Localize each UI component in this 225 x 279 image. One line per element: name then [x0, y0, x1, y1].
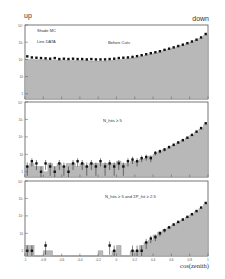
data-point	[63, 57, 65, 59]
y-tick-label: 10³	[18, 197, 23, 201]
data-point	[163, 49, 165, 51]
data-point	[205, 122, 207, 124]
data-point	[40, 171, 42, 173]
y-tick-label: 10²	[18, 58, 23, 62]
y-tick-label: 10⁴	[18, 180, 24, 184]
data-point	[145, 53, 147, 55]
data-point	[150, 52, 152, 54]
x-tick-label: -0.8	[41, 258, 47, 262]
data-point	[63, 165, 65, 167]
data-point	[81, 162, 83, 164]
data-point	[81, 58, 83, 60]
data-point	[163, 148, 165, 150]
data-point	[195, 38, 197, 40]
data-point	[131, 250, 133, 252]
panel-title: N_hits ≥ 5	[103, 118, 122, 123]
y-tick-label: 10²	[18, 214, 23, 218]
legend-mc: Shade MC	[37, 28, 56, 33]
y-tick-label: 10³	[18, 118, 23, 122]
x-tick-label: 0	[116, 258, 118, 262]
data-point	[95, 165, 97, 167]
data-point	[35, 162, 37, 164]
data-point	[205, 33, 207, 35]
y-tick-label: 10⁴	[18, 101, 24, 105]
x-tick-label: 0.6	[169, 258, 174, 262]
data-point	[122, 57, 124, 59]
data-point	[159, 50, 161, 52]
data-point	[182, 218, 184, 220]
data-point	[113, 165, 115, 167]
y-tick-label: 10	[19, 232, 23, 236]
data-point	[44, 57, 46, 59]
data-point	[54, 57, 56, 59]
data-point	[54, 171, 56, 173]
data-point	[140, 54, 142, 56]
data-point	[67, 58, 69, 60]
data-point	[195, 210, 197, 212]
data-point	[191, 134, 193, 136]
data-point	[131, 158, 133, 160]
data-point	[108, 58, 110, 60]
data-point	[172, 223, 174, 225]
panel-title: N_hits ≥ 5 and ΣP_hit ≥ 2.5	[105, 194, 156, 199]
data-point	[195, 130, 197, 132]
data-point	[72, 57, 74, 59]
data-point	[177, 45, 179, 47]
data-point	[172, 46, 174, 48]
data-point	[35, 57, 37, 59]
data-point	[168, 146, 170, 148]
data-point	[99, 58, 101, 60]
data-point	[154, 152, 156, 154]
data-point	[76, 160, 78, 162]
data-point	[172, 144, 174, 146]
data-point	[150, 237, 152, 239]
data-point	[58, 162, 60, 164]
data-point	[177, 221, 179, 223]
data-point	[186, 216, 188, 218]
y-tick-label: 10⁴	[18, 24, 24, 28]
data-point	[108, 244, 110, 246]
x-tick-label: 0.2	[133, 258, 138, 262]
y-tick-label: 1	[21, 249, 23, 253]
data-point	[122, 165, 124, 167]
x-tick-label: -0.2	[95, 258, 101, 262]
x-tick-label: -1	[24, 258, 27, 262]
data-point	[191, 213, 193, 215]
x-tick-label: -0.4	[77, 258, 83, 262]
data-point	[131, 56, 133, 58]
x-tick-label: 0.8	[187, 258, 192, 262]
data-point	[90, 162, 92, 164]
data-point	[113, 57, 115, 59]
data-point	[127, 160, 129, 162]
data-point	[104, 165, 106, 167]
data-point	[44, 162, 46, 164]
data-point	[163, 229, 165, 231]
x-tick-label: 0.4	[151, 258, 156, 262]
data-point	[159, 232, 161, 234]
data-point	[86, 58, 88, 60]
data-point	[108, 162, 110, 164]
data-point	[191, 40, 193, 42]
data-point	[76, 58, 78, 60]
data-point	[136, 250, 138, 252]
data-point	[40, 57, 42, 59]
y-tick-label: 10	[19, 153, 23, 157]
data-point	[72, 162, 74, 164]
y-tick-label: 1	[21, 170, 23, 174]
data-point	[49, 165, 51, 167]
data-point	[67, 171, 69, 173]
data-point	[168, 47, 170, 49]
data-point	[90, 58, 92, 60]
data-point	[186, 42, 188, 44]
data-point	[58, 58, 60, 60]
data-point	[168, 226, 170, 228]
data-point	[113, 250, 115, 252]
data-point	[99, 160, 101, 162]
data-point	[136, 160, 138, 162]
data-point	[118, 162, 120, 164]
data-point	[31, 56, 33, 58]
data-point	[145, 241, 147, 243]
data-point	[205, 202, 207, 204]
data-point	[154, 236, 156, 238]
x-tick-label: -0.6	[59, 258, 65, 262]
